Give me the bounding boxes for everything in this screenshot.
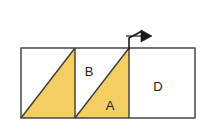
label-A: A xyxy=(106,98,115,113)
diagram-canvas: B A D xyxy=(0,0,207,129)
label-B: B xyxy=(85,64,94,79)
label-D: D xyxy=(153,79,162,94)
figure-container: B A D xyxy=(0,0,207,129)
